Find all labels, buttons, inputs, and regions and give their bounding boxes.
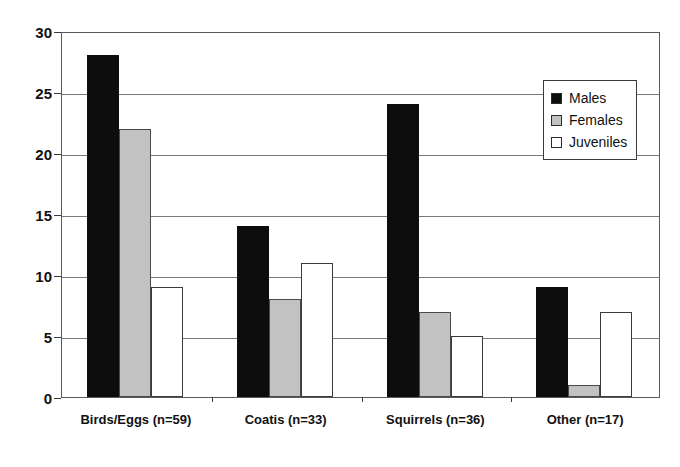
bar-juveniles-2 [451,336,483,397]
bar-females-3 [568,385,600,397]
bar-juveniles-3 [600,312,632,397]
y-axis-tick-label: 15 [12,208,52,223]
legend: Males Females Juveniles [543,80,637,160]
bar-males-3 [536,287,568,397]
y-axis-tick-label: 25 [12,86,52,101]
legend-label-females: Females [569,113,623,127]
y-axis-tick-label: 5 [12,330,52,345]
bar-males-1 [237,226,269,397]
legend-swatch-juveniles-icon [551,137,562,148]
bar-juveniles-0 [151,287,183,397]
y-axis-tick-mark [54,398,61,399]
bar-females-1 [269,299,301,397]
y-axis-tick-mark [54,154,61,155]
bar-females-0 [119,129,151,397]
legend-swatch-males-icon [551,93,562,104]
legend-label-males: Males [569,91,606,105]
y-axis-tick-mark [54,93,61,94]
y-axis-tick-label: 30 [12,25,52,40]
y-axis-tick-mark [54,32,61,33]
legend-label-juveniles: Juveniles [569,135,627,149]
legend-entry-males: Males [551,87,627,109]
x-axis-category-label: Squirrels (n=36) [386,412,485,427]
y-axis-tick-label: 0 [12,391,52,406]
x-axis-tick-mark [212,397,213,402]
legend-entry-females: Females [551,109,627,131]
x-axis-category-label: Coatis (n=33) [245,412,327,427]
legend-swatch-females-icon [551,115,562,126]
bar-males-2 [387,104,419,397]
y-axis-tick-label: 20 [12,147,52,162]
bar-juveniles-1 [301,263,333,397]
y-axis-tick-mark [54,276,61,277]
bar-males-0 [87,55,119,397]
gridline [62,216,659,217]
legend-entry-juveniles: Juveniles [551,131,627,153]
x-axis-tick-mark [511,397,512,402]
y-axis-tick-mark [54,337,61,338]
bar-chart: 051015202530 Birds/Eggs (n=59)Coatis (n=… [0,0,680,467]
x-axis-tick-mark [362,397,363,402]
bar-females-2 [419,312,451,397]
gridline [62,277,659,278]
x-axis-category-label: Birds/Eggs (n=59) [80,412,191,427]
y-axis-tick-label: 10 [12,269,52,284]
y-axis-tick-mark [54,215,61,216]
x-axis-category-label: Other (n=17) [547,412,624,427]
